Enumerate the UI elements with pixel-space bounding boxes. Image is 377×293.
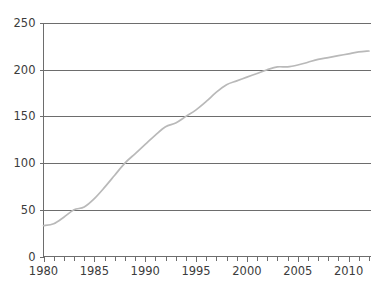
x-axis-tick-labels: 1980198519901995200020052010: [29, 264, 363, 278]
data-series-group: [44, 51, 369, 226]
y-tick-label-150: 150: [14, 109, 36, 123]
y-tick-label-0: 0: [28, 250, 35, 264]
y-axis-tick-labels: 050100150200250: [14, 16, 36, 264]
y-tick-label-250: 250: [14, 16, 36, 30]
data-line-series-1: [44, 51, 369, 226]
y-tick-label-50: 50: [21, 203, 36, 217]
x-tick-label-1990: 1990: [131, 264, 160, 278]
line-chart: 050100150200250 198019851990199520002005…: [0, 0, 377, 293]
x-tick-label-2005: 2005: [283, 264, 312, 278]
x-tick-label-1980: 1980: [29, 264, 58, 278]
x-tick-label-1985: 1985: [80, 264, 109, 278]
gridlines: [44, 24, 372, 211]
x-tick-label-1995: 1995: [181, 264, 210, 278]
x-tick-label-2010: 2010: [334, 264, 363, 278]
y-axis-tickmarks: [40, 24, 44, 258]
y-tick-label-200: 200: [14, 63, 36, 77]
x-tick-label-2000: 2000: [232, 264, 261, 278]
chart-canvas: 050100150200250 198019851990199520002005…: [0, 0, 377, 293]
x-axis-tickmarks: [45, 257, 370, 262]
y-tick-label-100: 100: [14, 156, 36, 170]
